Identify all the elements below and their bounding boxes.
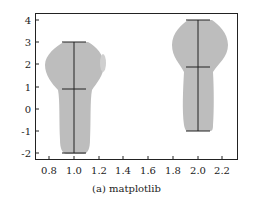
svg-text:2: 2 [25,59,31,70]
violin-chart: 4 3 2 1 0 -1 -2 0.8 1.0 1.2 1.4 1.6 1.8 … [0,0,253,208]
svg-text:-1: -1 [21,126,31,137]
svg-text:4: 4 [25,15,31,26]
violin-bump-1 [100,54,106,72]
svg-text:-2: -2 [21,148,31,159]
svg-text:2.0: 2.0 [190,165,206,176]
svg-text:0: 0 [25,104,31,115]
svg-text:1.2: 1.2 [91,165,107,176]
svg-text:1: 1 [25,82,31,93]
svg-text:1.0: 1.0 [66,165,82,176]
svg-text:1.6: 1.6 [140,165,156,176]
svg-text:2.2: 2.2 [214,165,230,176]
svg-text:3: 3 [25,37,31,48]
svg-text:1.4: 1.4 [115,165,131,176]
x-tick-labels: 0.8 1.0 1.2 1.4 1.6 1.8 2.0 2.2 [41,165,230,176]
svg-text:0.8: 0.8 [41,165,57,176]
y-tick-labels: 4 3 2 1 0 -1 -2 [21,15,31,159]
figure-caption: (a) matplotlib [0,183,253,194]
svg-text:1.8: 1.8 [165,165,181,176]
violin-body-2 [172,20,228,131]
